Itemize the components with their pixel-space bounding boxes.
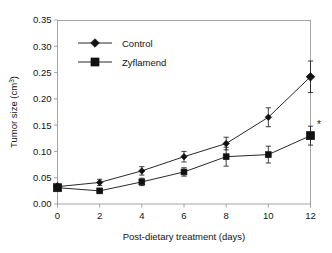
diamond-marker xyxy=(91,39,100,48)
y-axis: 0.000.050.100.150.200.250.300.35 xyxy=(33,14,58,209)
square-marker xyxy=(139,179,145,185)
y-tick-label: 0.35 xyxy=(33,14,52,25)
legend-label: Control xyxy=(122,38,153,49)
x-tick-label: 10 xyxy=(263,210,274,221)
x-axis-title: Post-dietary treatment (days) xyxy=(123,231,246,242)
diamond-marker xyxy=(181,153,187,159)
diamond-marker xyxy=(96,179,102,185)
y-tick-label: 0.30 xyxy=(33,41,52,52)
y-tick-label: 0.10 xyxy=(33,146,52,157)
y-axis-title-close: ) xyxy=(8,76,19,79)
significance-asterisk: * xyxy=(317,119,321,130)
y-tick-label: 0.15 xyxy=(33,120,52,131)
square-marker xyxy=(307,132,315,140)
y-axis-title: Tumor size (cm3) xyxy=(8,76,19,148)
x-tick-label: 4 xyxy=(139,210,144,221)
square-marker xyxy=(97,188,103,194)
y-tick-label: 0.05 xyxy=(33,172,52,183)
line-chart-canvas: 0.000.050.100.150.200.250.300.35 0246810… xyxy=(0,0,332,253)
chart-legend: ControlZyflamend xyxy=(78,38,166,68)
diamond-marker xyxy=(139,168,145,174)
data-series-group xyxy=(53,61,315,194)
chart-figure: 0.000.050.100.150.200.250.300.35 0246810… xyxy=(0,0,332,253)
y-tick-label: 0.00 xyxy=(33,198,52,209)
legend-item-zyflamend: Zyflamend xyxy=(78,57,166,68)
x-tick-label: 8 xyxy=(224,210,229,221)
square-marker xyxy=(91,58,99,66)
x-tick-label: 2 xyxy=(97,210,102,221)
y-tick-label: 0.25 xyxy=(33,67,52,78)
y-axis-title-base: Tumor size (cm xyxy=(8,83,19,148)
x-tick-label: 12 xyxy=(305,210,316,221)
x-tick-label: 0 xyxy=(55,210,60,221)
diamond-marker xyxy=(223,140,229,146)
x-axis: 024681012 xyxy=(55,204,316,221)
legend-label: Zyflamend xyxy=(122,57,166,68)
square-marker xyxy=(54,184,62,192)
annotations-group: * xyxy=(317,119,321,130)
square-marker xyxy=(181,169,187,175)
svg-text:Tumor size (cm3): Tumor size (cm3) xyxy=(8,76,19,148)
square-marker xyxy=(265,152,271,158)
y-tick-label: 0.20 xyxy=(33,93,52,104)
x-tick-label: 6 xyxy=(181,210,186,221)
legend-item-control: Control xyxy=(78,38,153,49)
square-marker xyxy=(223,154,229,160)
